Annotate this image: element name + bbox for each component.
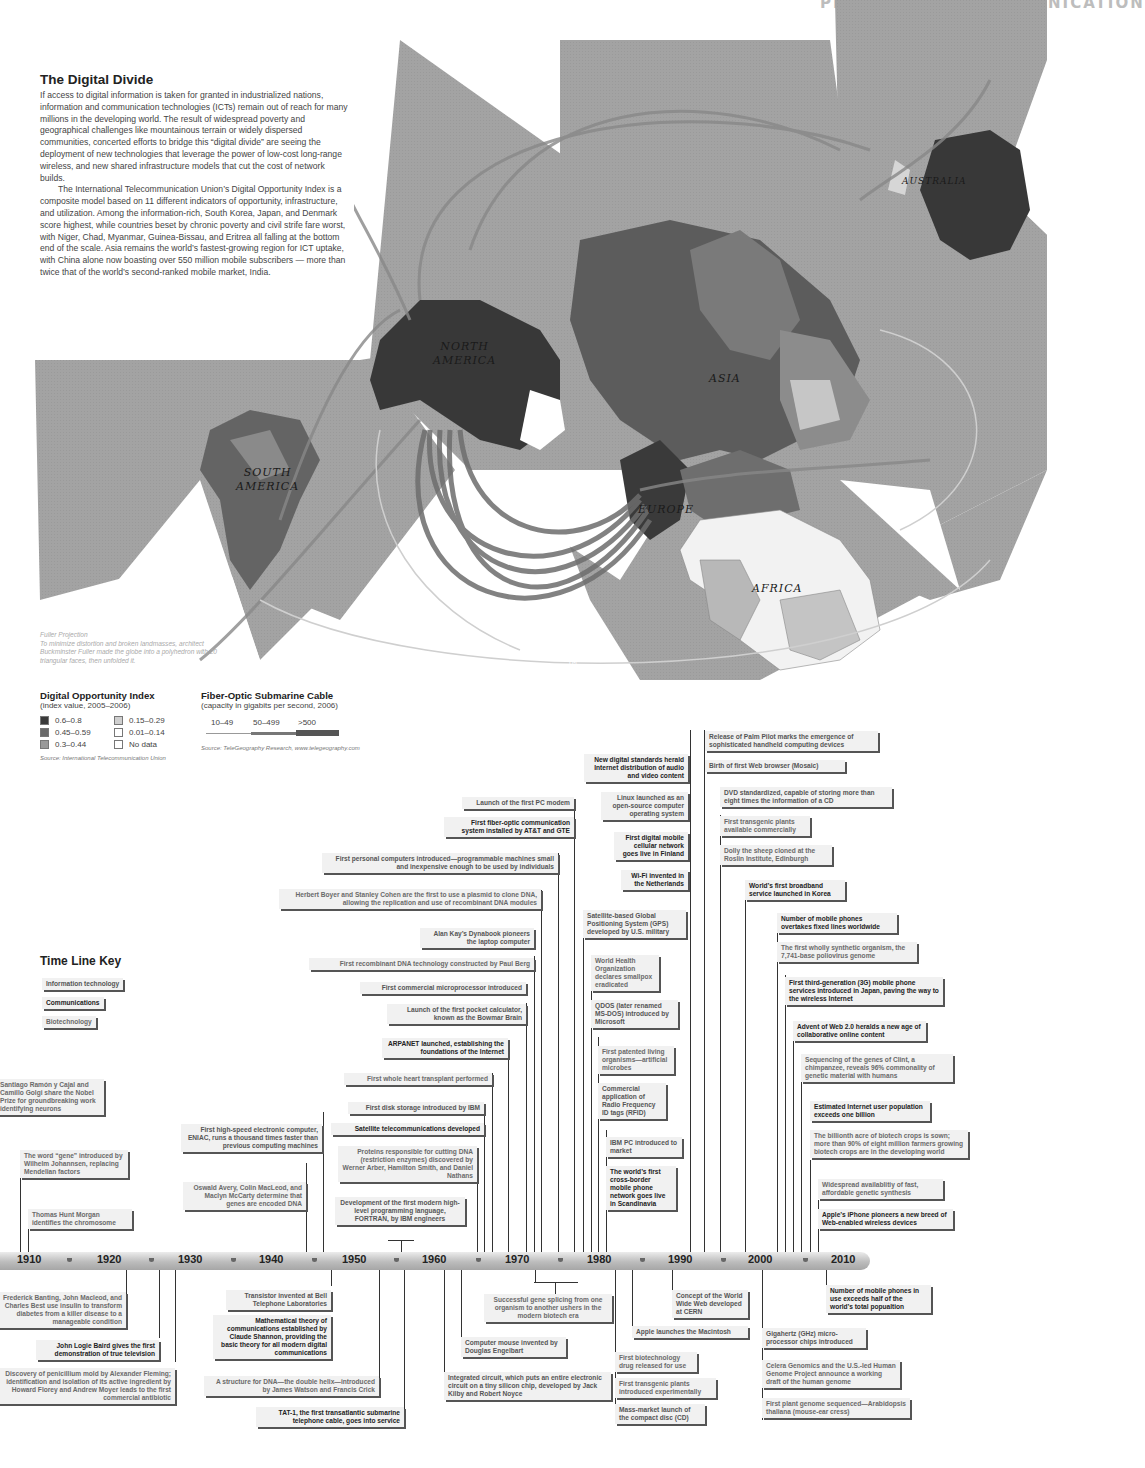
legend-doi-title: Digital Opportunity Index	[40, 690, 220, 701]
timeline-event: QDOS (later renamed MS-DOS) introduced b…	[591, 1000, 678, 1028]
timeline-event: Estimated Internet user population excee…	[810, 1101, 930, 1121]
timeline-event: Wi-Fi invented in the Netherlands	[621, 870, 688, 890]
timeline-event: Launch of the first pocket calculator, k…	[387, 1004, 526, 1024]
timeline-event: Transistor invented at Bell Telephone La…	[226, 1290, 331, 1310]
timeline-event: First transgenic plants introduced exper…	[615, 1378, 716, 1398]
legend-cable-subtitle: (capacity in gigabits per second, 2006)	[201, 701, 401, 710]
legend-label: 0.3–0.44	[55, 740, 86, 749]
timeline-event: Apple’s iPhone pioneers a new breed of W…	[818, 1209, 953, 1229]
swatch-icon	[114, 728, 123, 737]
label-asia: ASIA	[709, 372, 741, 386]
cable-tier-1: 10–49	[211, 718, 233, 727]
label-south-america: SOUTH AMERICA	[236, 466, 299, 494]
timeline-key-title: Time Line Key	[40, 954, 121, 968]
timeline-event: Computer mouse invented by Douglas Engel…	[461, 1337, 566, 1357]
intro-block: The Digital Divide If access to digital …	[40, 72, 354, 285]
legend-label: No data	[129, 740, 157, 749]
timeline-event: World’s first broadband service launched…	[745, 880, 845, 900]
year-label: 1940	[259, 1253, 283, 1265]
intro-paragraph-2: The International Telecommunication Unio…	[40, 184, 350, 278]
legend-doi-item: 0.3–0.44	[40, 738, 104, 750]
swatch-icon	[114, 716, 123, 725]
timeline-event: Number of mobile phones in use exceeds h…	[826, 1285, 931, 1313]
timeline-event: Oswald Avery, Colin MacLeod, and Maclyn …	[183, 1182, 306, 1210]
year-label: 1970	[505, 1253, 529, 1265]
timeline-event: IBM PC introduced to market	[606, 1137, 682, 1157]
timeline-event: Gigahertz (GHz) micro-processor chips in…	[762, 1328, 866, 1348]
timeline-event: The world’s first cross-border mobile ph…	[606, 1166, 676, 1210]
timeline-event: Number of mobile phones overtakes fixed …	[777, 913, 897, 933]
timeline-event: John Logie Baird gives the first demonst…	[36, 1340, 159, 1360]
legend-doi-item: 0.6–0.8	[40, 714, 104, 726]
legend-label: 0.6–0.8	[55, 716, 82, 725]
cable-tier-3: >500	[298, 718, 316, 727]
legend-label: 0.45–0.59	[55, 728, 91, 737]
timeline-event: First transgenic plants available commer…	[720, 816, 810, 836]
legend-doi: Digital Opportunity Index (index value, …	[40, 690, 220, 761]
timeline-event: Mass-market launch of the compact disc (…	[615, 1404, 705, 1424]
cable-line-thick	[296, 730, 339, 736]
year-label: 1910	[17, 1253, 41, 1265]
year-label: 2010	[831, 1253, 855, 1265]
year-label: 1980	[587, 1253, 611, 1265]
timeline-event: First personal computers introduced—prog…	[322, 853, 558, 873]
timeline-event: The billionth acre of biotech crops is s…	[810, 1130, 968, 1158]
timeline-event: First plant genome sequenced—Arabidopsis…	[762, 1398, 910, 1418]
label-africa: AFRICA	[752, 582, 803, 596]
label-europe: EUROPE	[638, 503, 694, 517]
timeline-event: Mathematical theory of communications es…	[213, 1315, 331, 1359]
legend-doi-source: Source: International Telecommunication …	[40, 755, 220, 761]
year-label: 1990	[668, 1253, 692, 1265]
key-communications: Communications	[42, 997, 104, 1009]
timeline-event: Advent of Web 2.0 heralds a new age of c…	[793, 1021, 926, 1041]
year-label: 1920	[97, 1253, 121, 1265]
timeline-event: Widespread availablitiy of fast, afforda…	[818, 1179, 943, 1199]
timeline-event: First whole heart transplant performed	[344, 1073, 492, 1085]
timeline-event: Dolly the sheep cloned at the Roslin Ins…	[720, 845, 832, 865]
legend-label: 0.01–0.14	[129, 728, 165, 737]
intro-paragraph-1: If access to digital information is take…	[40, 90, 350, 184]
label-australia: AUSTRALIA	[902, 174, 967, 188]
timeline-event: Sequencing of the genes of Clint, a chim…	[801, 1054, 953, 1082]
legend-doi-item: 0.15–0.29	[114, 714, 194, 726]
key-information-technology: Information technology	[42, 978, 123, 990]
timeline-event: Herbert Boyer and Stanley Cohen are the …	[279, 889, 541, 909]
timeline-event: Integrated circuit, which puts an entire…	[444, 1372, 611, 1400]
timeline-event: Celera Genomics and the U.S.-led Human G…	[762, 1360, 900, 1388]
timeline-event: First third-generation (3G) mobile phone…	[785, 977, 943, 1005]
year-label: 1930	[178, 1253, 202, 1265]
timeline-event: ARPANET launched, establishing the found…	[382, 1038, 508, 1058]
timeline-event: New digital standards herald Internet di…	[584, 754, 688, 782]
timeline-event: First disk storage introduced by IBM	[348, 1102, 484, 1114]
timeline-event: Successful gene splicing from one organi…	[484, 1294, 612, 1322]
timeline-event: Launch of the first PC modem	[462, 797, 574, 809]
timeline-event: First high-speed electronic computer, EN…	[181, 1124, 322, 1152]
intro-title: The Digital Divide	[40, 72, 350, 87]
legend-doi-item: 0.01–0.14	[114, 726, 194, 738]
timeline-event: First recombinant DNA technology constru…	[309, 958, 534, 970]
timeline-event: Release of Palm Pilot marks the emergenc…	[705, 731, 878, 751]
timeline-event: Birth of first Web browser (Mosaic)	[705, 760, 845, 772]
timeline-event: Satellite-based Global Positioning Syste…	[583, 910, 686, 938]
timeline-event: The first wholly synthetic organism, the…	[777, 942, 917, 962]
timeline-event: The word “gene” introduced by Wilhelm Jo…	[20, 1150, 128, 1178]
timeline-event: Concept of the World Wide Web developed …	[672, 1290, 748, 1318]
timeline-event: First biotechnology drug released for us…	[615, 1352, 697, 1372]
cable-line-medium	[251, 732, 296, 735]
timeline-event: A structure for DNA—the double helix—int…	[204, 1376, 379, 1396]
year-label: 1950	[342, 1253, 366, 1265]
timeline-event: World Health Organization declares small…	[591, 955, 659, 991]
year-label: 1960	[422, 1253, 446, 1265]
map-caption: Fuller Projection To minimize distortion…	[40, 631, 220, 665]
swatch-icon	[40, 716, 49, 725]
label-north-america: NORTH AMERICA	[433, 340, 496, 368]
timeline-event: Commercial application of Radio Frequenc…	[598, 1083, 666, 1119]
timeline-event: DVD standardized, capable of storing mor…	[720, 787, 892, 807]
timeline-event: First patented living organisms—artifici…	[598, 1046, 674, 1074]
legend-doi-subtitle: (index value, 2005–2006)	[40, 701, 220, 710]
legend-cable-source: Source: TeleGeography Research, www.tele…	[201, 745, 401, 751]
timeline-event: Frederick Banting, John Macleod, and Cha…	[0, 1292, 126, 1328]
cable-tier-2: 50–499	[253, 718, 280, 727]
timeline-event: Proteins responsible for cutting DNA (re…	[338, 1146, 477, 1182]
timeline-event: First fiber-optic communication system i…	[444, 817, 574, 837]
